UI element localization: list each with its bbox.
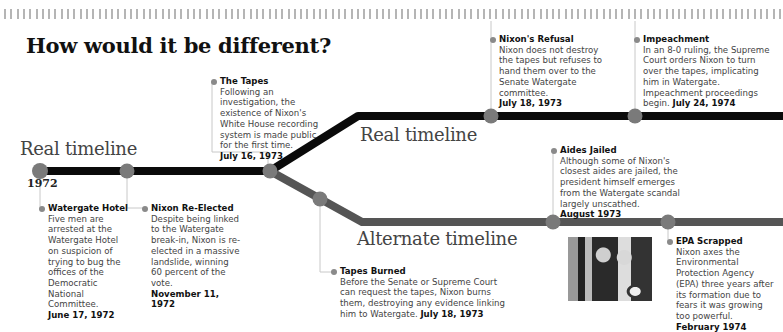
real-timeline-label: Real timeline (20, 138, 137, 159)
event-title: Nixon Re-Elected (151, 203, 241, 214)
node-nixons-refusal[interactable] (484, 109, 499, 124)
event-title: Watergate Hotel (48, 203, 128, 214)
event-impeachment: Impeachment In an 8-0 ruling, the Suprem… (643, 34, 773, 109)
start-year-label: 1972 (27, 177, 58, 190)
node-nixon-re-elected[interactable] (120, 164, 135, 179)
event-title: Nixon's Refusal (499, 34, 614, 45)
event-title: Impeachment (643, 34, 773, 45)
node-tapes-burned[interactable] (313, 192, 328, 207)
event-date: August 1973 (560, 209, 685, 220)
event-date: July 18, 1973 (420, 309, 483, 319)
alternate-timeline-line (270, 171, 783, 222)
node-aides-jailed[interactable] (546, 215, 561, 230)
event-tapes-burned: Tapes Burned Before the Senate or Suprem… (340, 266, 510, 320)
event-title: EPA Scrapped (676, 236, 776, 247)
event-date: June 17, 1972 (48, 310, 128, 321)
event-title: Aides Jailed (560, 145, 685, 156)
nixon-podium-photo (568, 237, 652, 301)
node-impeachment[interactable] (628, 109, 643, 124)
event-date: July 18, 1973 (499, 98, 614, 109)
event-body: Five men are arrested at the Watergate H… (48, 214, 121, 310)
event-body: Nixon axes the Environmental Protection … (676, 247, 774, 321)
event-the-tapes: The Tapes Following an investigation, th… (220, 76, 330, 162)
real-timeline-label-branch: Real timeline (360, 124, 477, 145)
event-aides-jailed: Aides Jailed Although some of Nixon's cl… (560, 145, 685, 220)
node-the-tapes[interactable] (263, 164, 278, 179)
event-epa-scrapped: EPA Scrapped Nixon axes the Environmenta… (676, 236, 776, 332)
event-title: Tapes Burned (340, 266, 510, 277)
event-date: November 11, 1972 (151, 289, 241, 310)
event-body: Although some of Nixon's closest aides a… (560, 156, 680, 209)
event-body: Following an investigation, the existenc… (220, 87, 318, 151)
alternate-timeline-label: Alternate timeline (357, 228, 517, 249)
event-date: July 24, 1974 (673, 98, 736, 108)
event-body: Despite being linked to the Watergate br… (151, 214, 240, 288)
event-watergate-hotel: Watergate Hotel Five men are arrested at… (48, 203, 128, 321)
event-title: The Tapes (220, 76, 330, 87)
event-date: February 1974 (676, 322, 776, 332)
event-nixons-refusal: Nixon's Refusal Nixon does not destroy t… (499, 34, 614, 109)
event-date: July 16, 1973 (220, 151, 330, 162)
event-nixon-re-elected: Nixon Re-Elected Despite being linked to… (151, 203, 241, 310)
event-body: Nixon does not destroy the tapes but ref… (499, 45, 602, 98)
